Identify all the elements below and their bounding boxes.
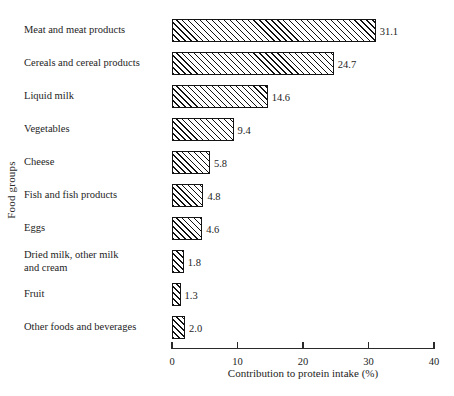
bar-value-label: 9.4 — [234, 124, 251, 135]
bar — [172, 250, 184, 273]
x-axis-tick — [433, 342, 434, 349]
x-axis-tick-label: 10 — [232, 356, 243, 367]
bar — [172, 217, 202, 240]
x-axis-tick — [171, 342, 172, 349]
bar-value-label: 1.8 — [184, 256, 201, 267]
bar-value-label: 5.8 — [210, 157, 227, 168]
category-label: Liquid milk — [24, 90, 170, 103]
x-axis: 010203040 — [172, 348, 434, 349]
plot-area: 31.124.714.69.45.84.84.61.81.32.0 — [172, 18, 434, 348]
x-axis-tick-label: 40 — [429, 356, 440, 367]
category-label: Cereals and cereal products — [24, 57, 170, 70]
x-axis-tick — [368, 342, 369, 349]
category-label: Dried milk, other milk and cream — [24, 249, 170, 274]
bar-value-label: 14.6 — [268, 91, 290, 102]
bar-value-label: 2.0 — [185, 322, 202, 333]
bar — [172, 184, 203, 207]
category-label-column: Meat and meat productsCereals and cereal… — [24, 18, 170, 348]
bar-value-label: 4.8 — [203, 190, 220, 201]
bar — [172, 52, 334, 75]
bar-value-label: 1.3 — [181, 289, 198, 300]
category-label: Eggs — [24, 222, 170, 235]
category-label: Vegetables — [24, 123, 170, 136]
x-axis-tick — [237, 342, 238, 349]
bar — [172, 151, 210, 174]
category-label: Cheese — [24, 156, 170, 169]
category-label: Fish and fish products — [24, 189, 170, 202]
x-axis-tick-label: 0 — [169, 356, 174, 367]
bar — [172, 316, 185, 339]
x-axis-tick — [302, 342, 303, 349]
category-label: Other foods and beverages — [24, 321, 170, 334]
bar — [172, 283, 181, 306]
y-axis-title-text: Food groups — [5, 161, 17, 219]
category-label: Meat and meat products — [24, 24, 170, 37]
bar — [172, 85, 268, 108]
x-axis-tick-label: 20 — [298, 356, 309, 367]
category-label: Fruit — [24, 288, 170, 301]
bar-value-label: 24.7 — [334, 58, 356, 69]
bar-chart: Food groups Meat and meat productsCereal… — [0, 0, 454, 396]
x-axis-tick-label: 30 — [363, 356, 374, 367]
bar-value-label: 31.1 — [376, 25, 398, 36]
bar-value-label: 4.6 — [202, 223, 219, 234]
bar — [172, 118, 234, 141]
bar — [172, 19, 376, 42]
y-axis-title: Food groups — [2, 140, 20, 240]
x-axis-title: Contribution to protein intake (%) — [172, 367, 434, 379]
